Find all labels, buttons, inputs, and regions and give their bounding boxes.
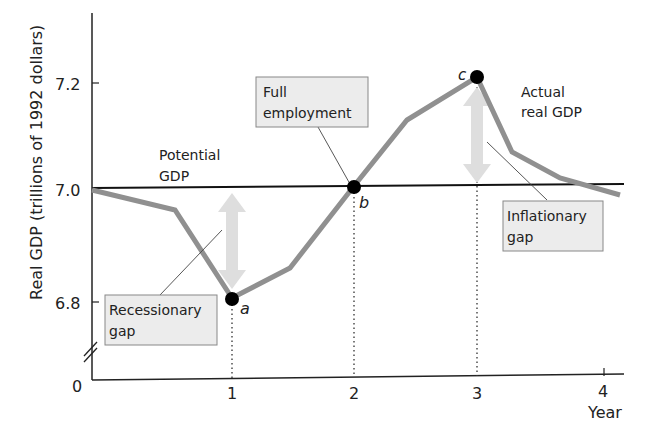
- x-axis-label: Year: [587, 403, 622, 422]
- potential-gdp-label-1: Potential: [159, 147, 220, 163]
- recessionary-gap-label-1: Recessionary: [109, 302, 202, 318]
- x-axis: [92, 374, 624, 380]
- full-employment-label-1: Full: [263, 84, 287, 100]
- gdp-gap-chart: Real GDP (trillions of 1992 dollars) 7.2…: [0, 0, 647, 443]
- actual-gdp-label-2: real GDP: [521, 104, 582, 120]
- x-tick-4: 4: [598, 382, 608, 401]
- inflationary-gap-label-1: Inflationary: [507, 208, 587, 224]
- y-tick-7-0: 7.0: [55, 181, 80, 200]
- point-a-label: a: [240, 299, 250, 318]
- y-tick-7-2: 7.2: [55, 75, 80, 94]
- x-tick-3: 3: [472, 384, 482, 403]
- point-c: [470, 70, 484, 84]
- point-b: [347, 180, 361, 194]
- full-employment-label-2: employment: [263, 105, 352, 121]
- recessionary-gap-arrow: [218, 193, 246, 289]
- x-tick-1: 1: [227, 384, 237, 403]
- point-c-label: c: [458, 66, 467, 84]
- actual-gdp-label-1: Actual: [521, 84, 565, 100]
- y-axis-label: Real GDP (trillions of 1992 dollars): [27, 25, 46, 300]
- x-tick-2: 2: [349, 384, 359, 403]
- point-a: [225, 292, 239, 306]
- point-b-label: b: [359, 193, 369, 212]
- y-tick-6-8: 6.8: [55, 294, 80, 313]
- inflationary-gap-label-2: gap: [507, 229, 533, 245]
- y-tick-0: 0: [72, 377, 82, 396]
- axis-break-icon: [84, 342, 97, 362]
- recessionary-gap-label-2: gap: [109, 323, 135, 339]
- potential-gdp-label-2: GDP: [159, 168, 189, 184]
